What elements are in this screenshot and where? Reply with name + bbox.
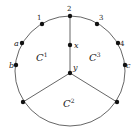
node-label-b: b <box>9 61 14 70</box>
node-a <box>20 41 24 45</box>
node-br <box>115 100 119 104</box>
edge-y-br <box>70 73 117 102</box>
node-y <box>68 71 72 75</box>
region-label-C3: C3 <box>89 51 101 63</box>
graph-diagram: 213a4bcxy C1C3C2 <box>0 0 135 133</box>
region-label-C1: C1 <box>36 51 47 63</box>
node-label-a: a <box>14 39 19 48</box>
node-label-1: 1 <box>37 14 41 22</box>
node-label-3: 3 <box>99 14 103 22</box>
node-label-c: c <box>126 61 131 70</box>
node-label-2: 2 <box>67 5 71 13</box>
node-2 <box>68 14 72 18</box>
node-3 <box>95 22 99 26</box>
node-label-x: x <box>74 41 79 50</box>
region-label-C2: C2 <box>63 97 75 109</box>
node-label-4: 4 <box>120 40 125 48</box>
node-label-y: y <box>72 63 78 72</box>
node-1 <box>40 22 44 26</box>
node-b <box>14 63 18 67</box>
node-bl <box>21 100 25 104</box>
node-x <box>68 43 72 47</box>
